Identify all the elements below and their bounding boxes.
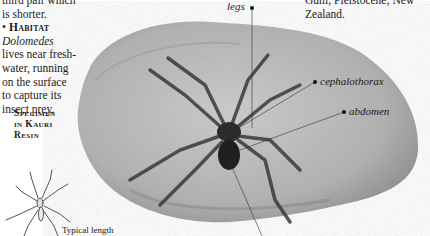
callout-legs: legs (227, 0, 245, 12)
origin-line: Zealand. (305, 8, 430, 22)
specimen-heading: Specimen in Kauri Resin (14, 108, 56, 141)
scale-note: Typical length (62, 225, 114, 235)
genus-name: Dolomedes (2, 35, 54, 47)
previous-text-line: third pair which is shorter. (2, 0, 80, 21)
habitat-line: lives near fresh- (2, 48, 80, 62)
callout-cephalothorax: cephalothorax (320, 75, 384, 87)
habitat-paragraph: third pair which is shorter. • Habitat D… (2, 0, 80, 116)
specimen-heading-line: Resin (14, 130, 56, 141)
kauri-resin-specimen (78, 22, 418, 223)
origin-paragraph: Gum; Pleistocene; New Zealand. (305, 0, 430, 21)
origin-line: Gum; Pleistocene; New (305, 0, 430, 8)
habitat-heading-line: • Habitat Dolomedes (2, 21, 80, 48)
habitat-heading: Habitat (9, 21, 50, 33)
specimen-heading-line: Specimen (14, 108, 56, 119)
scale-spider-drawing (6, 170, 70, 236)
specimen-heading-line: in Kauri (14, 119, 56, 130)
callout-abdomen: abdomen (349, 105, 389, 117)
habitat-line: on the surface (2, 76, 80, 90)
habitat-line: to capture its (2, 89, 80, 103)
bullet: • (2, 21, 6, 33)
habitat-line: water, running (2, 62, 80, 76)
